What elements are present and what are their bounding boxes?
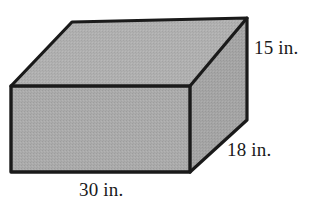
dimension-label-height: 15 in. [254, 38, 298, 57]
dimension-label-depth: 18 in. [227, 140, 271, 159]
rectangular-prism-diagram [0, 0, 317, 204]
dimension-label-width: 30 in. [79, 180, 123, 199]
figure-canvas: 15 in. 18 in. 30 in. [0, 0, 317, 204]
prism-front-face [11, 86, 190, 172]
